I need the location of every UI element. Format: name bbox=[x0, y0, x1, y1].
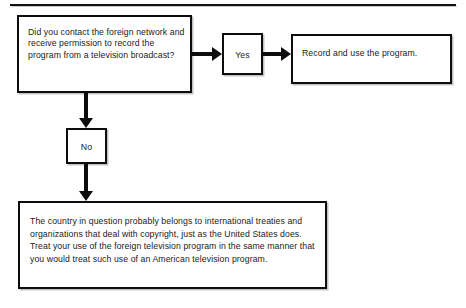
arrow-no-to-conclusion-head-icon bbox=[79, 191, 93, 201]
arrow-question-to-yes-head-icon bbox=[212, 47, 222, 61]
no-branch-label: No bbox=[68, 142, 105, 153]
yes-branch-box[interactable]: Yes bbox=[222, 33, 263, 75]
arrow-no-to-conclusion-stem bbox=[84, 164, 88, 193]
no-branch-box[interactable]: No bbox=[66, 128, 107, 164]
yes-branch-label: Yes bbox=[224, 50, 261, 61]
arrow-yes-to-record-head-icon bbox=[281, 47, 291, 61]
arrow-question-to-no-stem bbox=[84, 93, 88, 120]
arrow-yes-to-record-stem bbox=[263, 52, 282, 56]
decision-question-box[interactable]: Did you contact the foreign network and … bbox=[17, 15, 192, 93]
record-outcome-box[interactable]: Record and use the program. bbox=[291, 34, 452, 84]
arrow-question-to-yes-stem bbox=[192, 52, 213, 56]
flowchart-canvas: Did you contact the foreign network and … bbox=[0, 0, 466, 308]
conclusion-box[interactable]: The country in question probably belongs… bbox=[18, 201, 327, 289]
record-outcome-text: Record and use the program. bbox=[302, 48, 450, 59]
decision-question-text: Did you contact the foreign network and … bbox=[28, 27, 188, 61]
conclusion-text: The country in question probably belongs… bbox=[30, 215, 320, 265]
top-horizontal-rule bbox=[10, 4, 456, 6]
arrow-question-to-no-head-icon bbox=[79, 118, 93, 128]
